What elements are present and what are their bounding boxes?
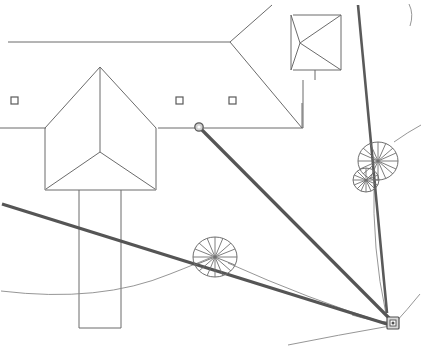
- tree-canopy-center: [193, 237, 237, 277]
- path-left-curve: [1, 257, 212, 295]
- survey-station-center: [392, 322, 395, 325]
- measurement-node[interactable]: [195, 123, 203, 131]
- square-marker-3[interactable]: [229, 97, 236, 104]
- survey-station[interactable]: [387, 317, 399, 329]
- pavilion-hip-upper: [300, 15, 341, 43]
- sight-lines: [2, 5, 392, 325]
- site-plan-canvas: [0, 0, 421, 353]
- site-plan-svg: [0, 0, 421, 353]
- tree-spokes: [193, 237, 237, 277]
- pavilion-apex-lower-left: [291, 43, 300, 70]
- path-corner-tick-icon: [409, 4, 412, 26]
- square-marker-1[interactable]: [11, 97, 18, 104]
- main-roof-plan: [0, 5, 303, 128]
- path-tree-upper-right-spur: [394, 125, 421, 142]
- control-point-markers: [11, 97, 236, 104]
- path-station-branch-low: [288, 326, 390, 345]
- pavilion-apex-upper-left: [291, 15, 300, 43]
- pavilion-hip-lower: [300, 43, 341, 70]
- site-paths: [1, 4, 421, 345]
- house-hip-upper-left: [45, 67, 100, 128]
- square-marker-2[interactable]: [176, 97, 183, 104]
- house-hip-upper-right: [100, 67, 156, 128]
- measurement-node-center: [197, 125, 200, 128]
- house-hip-lower-right: [100, 152, 155, 189]
- annex-block: [79, 190, 121, 328]
- house-roof: [45, 67, 156, 190]
- tree-canopy-lower-right: [353, 168, 379, 192]
- pavilion-roof: [291, 15, 341, 128]
- house-hip-lower-left: [46, 152, 100, 189]
- main-roof-hip-upper-right: [230, 5, 272, 42]
